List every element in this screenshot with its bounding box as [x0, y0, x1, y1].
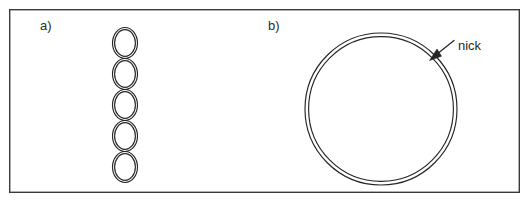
- figure-container: a): [0, 0, 529, 204]
- panel-a-label: a): [40, 18, 52, 33]
- figure-frame: [10, 10, 520, 193]
- panel-b-label: b): [268, 18, 280, 33]
- nick-label: nick: [458, 38, 482, 53]
- figure-canvas: a): [0, 0, 529, 204]
